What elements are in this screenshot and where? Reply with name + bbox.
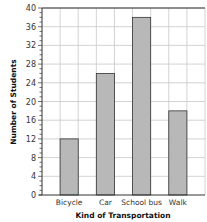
y-tick-label: 24 <box>26 79 36 88</box>
x-axis-title: Kind of Transportation <box>75 211 170 220</box>
bar-chart: 0481216202428323640 BicycleCarSchool bus… <box>0 0 207 222</box>
y-tick-labels: 0481216202428323640 <box>26 4 36 200</box>
x-category-labels: BicycleCarSchool busWalk <box>56 198 188 207</box>
x-category-label: Bicycle <box>56 198 83 207</box>
bar-car <box>96 73 114 195</box>
bar-bicycle <box>60 139 78 195</box>
bars <box>60 17 187 195</box>
x-category-label: Walk <box>169 198 188 207</box>
bar-school-bus <box>133 17 151 195</box>
y-tick-label: 28 <box>26 60 36 69</box>
bar-walk <box>169 111 187 195</box>
y-tick-label: 36 <box>26 23 36 32</box>
x-category-label: School bus <box>121 198 162 207</box>
y-tick-label: 0 <box>31 191 36 200</box>
y-tick-label: 12 <box>26 135 36 144</box>
y-axis-title: Number of Students <box>9 59 18 145</box>
x-category-label: Car <box>99 198 113 207</box>
y-tick-label: 16 <box>26 116 36 125</box>
y-tick-label: 8 <box>31 154 36 163</box>
y-tick-label: 20 <box>26 98 36 107</box>
y-tick-label: 32 <box>26 41 36 50</box>
y-tick-label: 4 <box>31 172 36 181</box>
y-tick-label: 40 <box>26 4 36 13</box>
